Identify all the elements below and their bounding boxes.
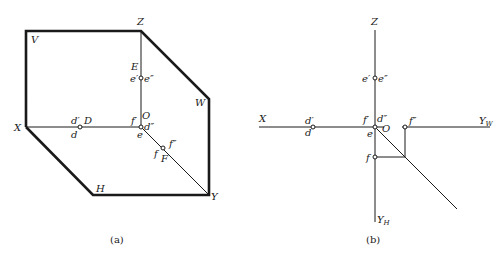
label-E: E: [130, 61, 139, 72]
label-d-prime: d′: [305, 115, 314, 126]
label-d: d: [305, 127, 311, 138]
point-e: [139, 76, 143, 80]
label-Z: Z: [370, 16, 379, 27]
label-f-dprime: f″: [408, 115, 417, 126]
point-f: [373, 155, 377, 159]
label-f-prime: f′: [362, 114, 370, 125]
caption-a: (a): [110, 234, 124, 245]
label-d: d: [71, 129, 77, 140]
label-e-prime: e′: [362, 73, 371, 84]
label-O: O: [142, 110, 150, 121]
label-e: e: [367, 128, 373, 139]
figure-a: V Z W X H Y E e′ e″ O f′ d″ e d′ D d f″ …: [13, 16, 219, 245]
label-d-prime: d′: [71, 115, 80, 126]
figure-b: Z e′ e″ X d′ d f′ d″ O e f″ YW f YH (b): [258, 16, 494, 245]
label-V: V: [31, 34, 40, 45]
label-YH: YH: [377, 214, 391, 227]
point-f: [161, 146, 165, 150]
label-F: F: [160, 153, 169, 164]
diagonal-45: [375, 127, 457, 209]
point-origin: [373, 125, 377, 129]
label-Y: Y: [211, 191, 219, 202]
label-f: f: [365, 152, 372, 163]
box-outline: [26, 31, 209, 195]
label-f-prime: f′: [130, 115, 138, 126]
label-e: e: [137, 129, 143, 140]
label-f: f: [153, 148, 160, 159]
caption-b: (b): [366, 234, 380, 245]
label-YW: YW: [479, 115, 494, 128]
label-W: W: [195, 97, 206, 108]
label-D: D: [83, 115, 92, 126]
label-Z: Z: [136, 16, 145, 27]
point-f-dprime: [403, 125, 407, 129]
label-e-prime: e′: [130, 73, 139, 84]
projection-diagram: V Z W X H Y E e′ e″ O f′ d″ e d′ D d f″ …: [0, 0, 502, 255]
label-e-dprime: e″: [378, 73, 388, 84]
point-e: [373, 76, 377, 80]
label-X: X: [258, 113, 267, 124]
label-f-dprime: f″: [168, 138, 177, 149]
label-e-dprime: e″: [144, 73, 154, 84]
label-H: H: [95, 183, 105, 194]
label-X: X: [13, 122, 22, 133]
label-O: O: [382, 123, 390, 134]
label-d-dprime: d″: [144, 121, 154, 132]
